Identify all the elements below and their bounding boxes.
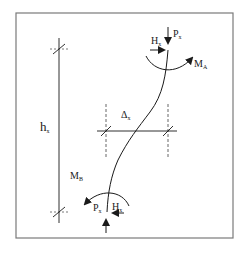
height-label-sub: x [47,128,50,134]
top-moment-arrow [146,56,192,70]
top-shear-label: Hx [151,36,161,47]
top-axial-label: Px [173,29,182,40]
bottom-moment-label-sub: B [79,176,83,182]
bottom-moment-label: MB [70,171,83,182]
drift-label-sub: x [127,115,130,121]
bottom-moment-arrow [85,193,129,206]
top-moment-label-main: M [194,58,203,69]
height-dimension [50,38,68,223]
top-moment-label: MA [194,59,207,70]
drift-dimension [97,104,177,158]
top-axial-label-sub: x [179,34,182,40]
drift-label: Δx [121,110,130,121]
diagram-canvas [0,0,248,268]
column-drift-diagram: hx Δx Px Hx MA MB Px Hx [0,0,248,268]
height-label: hx [40,120,50,134]
bottom-shear-label-sub: x [119,207,122,213]
top-moment-label-sub: A [203,64,207,70]
bottom-axial-label-sub: x [99,208,102,214]
bottom-moment-label-main: M [70,170,79,181]
bottom-shear-label: Hx [112,202,122,213]
top-shear-label-sub: x [158,41,161,47]
bottom-axial-label: Px [93,203,102,214]
